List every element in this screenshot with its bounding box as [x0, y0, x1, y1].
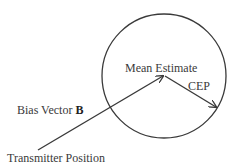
- cep-label: CEP: [188, 80, 210, 92]
- bias-vector-symbol: B: [75, 103, 83, 117]
- mean-estimate-label: Mean Estimate: [125, 62, 197, 74]
- cep-circle: [102, 14, 226, 138]
- transmitter-position-label: Transmitter Position: [7, 152, 105, 164]
- bias-vector-text: Bias Vector: [17, 103, 75, 117]
- bias-vector-label: Bias Vector B: [17, 104, 83, 116]
